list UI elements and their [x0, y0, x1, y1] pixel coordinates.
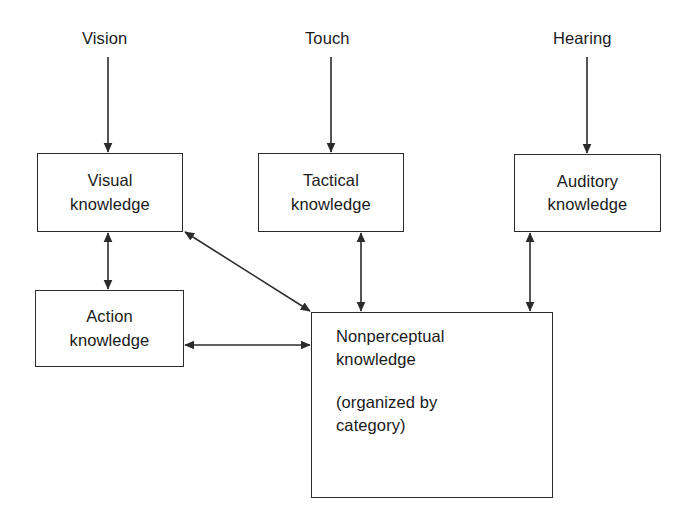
node-auditory-knowledge-line-1: Auditory [557, 170, 618, 193]
node-action-knowledge-line-1: Action [86, 305, 132, 328]
node-action-knowledge[interactable]: Action knowledge [35, 290, 184, 367]
node-visual-knowledge-line-1: Visual [87, 169, 132, 192]
source-label-hearing: Hearing [553, 30, 611, 47]
source-label-touch: Touch [305, 30, 350, 47]
node-nonperceptual-knowledge-line-1: Nonperceptual [336, 325, 445, 348]
node-visual-knowledge-line-2: knowledge [70, 193, 150, 216]
node-nonperceptual-knowledge-line-3: (organized by [336, 391, 437, 414]
node-tactical-knowledge[interactable]: Tactical knowledge [258, 153, 404, 232]
node-tactical-knowledge-line-1: Tactical [303, 169, 359, 192]
diagram-canvas: Vision Touch Hearing Visual knowledge Ta… [0, 0, 686, 524]
node-nonperceptual-knowledge[interactable]: Nonperceptual knowledge (organized by ca… [311, 312, 553, 498]
node-nonperceptual-knowledge-line-2: knowledge [336, 348, 416, 371]
node-tactical-knowledge-line-2: knowledge [291, 193, 371, 216]
node-action-knowledge-line-2: knowledge [70, 329, 150, 352]
node-auditory-knowledge-line-2: knowledge [548, 193, 628, 216]
edge-visual-nonperceptual [185, 232, 310, 311]
node-nonperceptual-knowledge-line-4: category) [336, 414, 406, 437]
source-label-vision: Vision [82, 30, 127, 47]
node-visual-knowledge[interactable]: Visual knowledge [37, 153, 183, 232]
node-auditory-knowledge[interactable]: Auditory knowledge [514, 154, 661, 232]
